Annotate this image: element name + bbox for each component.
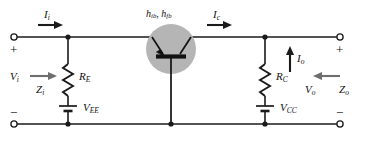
circuit-schematic-canvas (0, 0, 365, 147)
input-negative-sign: − (10, 106, 17, 119)
transistor-h-parameters-label: hib, hfb (146, 9, 172, 20)
emitter-resistor-label: RE (79, 71, 90, 83)
output-current-label: Io (297, 53, 304, 65)
emitter-resistor-symbol (63, 64, 73, 96)
input-impedance-arrowhead (48, 72, 57, 80)
input-current-label: Ii (44, 9, 50, 21)
h-param-separator: , (156, 8, 159, 19)
circuit-diagram-figure: hib, hfb Ii Ic Io Vi Zi Vo Zo RE RC VEE … (0, 0, 365, 147)
collector-resistor-symbol (260, 64, 270, 96)
input-positive-sign: + (10, 43, 17, 56)
collector-resistor-label: RC (276, 71, 288, 83)
output-voltage-label: Vo (305, 84, 315, 96)
input-negative-terminal (11, 121, 17, 127)
collector-top-junction-dot (262, 34, 267, 39)
input-positive-terminal (11, 34, 17, 40)
input-current-arrowhead (54, 21, 63, 29)
collector-bottom-junction-dot (262, 121, 267, 126)
collector-current-arrowhead (223, 21, 232, 29)
input-voltage-label: Vi (10, 71, 19, 83)
output-impedance-arrowhead (313, 72, 322, 80)
input-impedance-label: Zi (36, 84, 44, 96)
emitter-bottom-junction-dot (65, 121, 70, 126)
emitter-top-junction-dot (65, 34, 70, 39)
emitter-supply-label: VEE (83, 102, 99, 114)
h-param-fb: hfb (161, 8, 171, 19)
output-negative-terminal (337, 121, 343, 127)
base-bottom-junction-dot (168, 121, 173, 126)
output-positive-sign: + (336, 43, 343, 56)
output-negative-sign: − (336, 106, 343, 119)
collector-current-label: Ic (213, 9, 220, 21)
output-current-arrowhead (286, 46, 294, 55)
h-param-ib: hib (146, 8, 156, 19)
output-positive-terminal (337, 34, 343, 40)
collector-supply-label: VCC (280, 102, 297, 114)
output-impedance-label: Zo (339, 84, 349, 96)
